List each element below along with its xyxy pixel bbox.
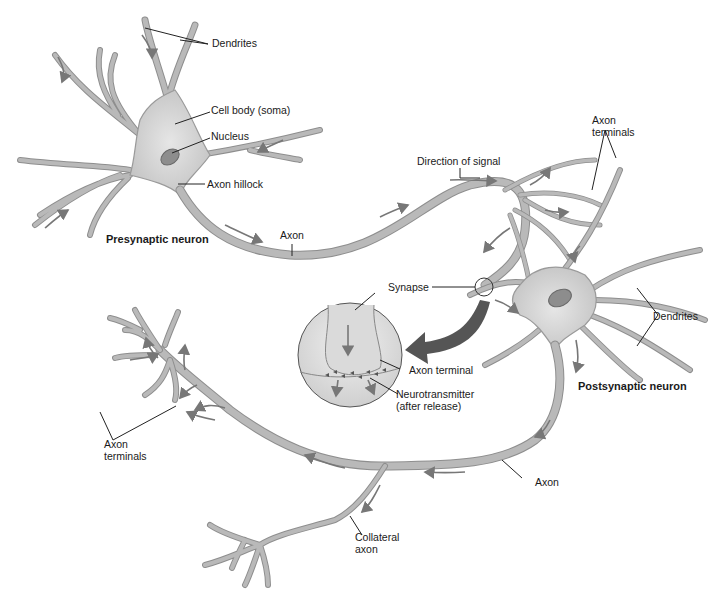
label-postsynaptic-neuron: Postsynaptic neuron	[578, 380, 687, 392]
label-axon-top: Axon	[280, 229, 304, 241]
magnify-callout-arrow	[405, 300, 490, 364]
collateral-axon	[205, 466, 385, 585]
label-cell-body: Cell body (soma)	[211, 104, 290, 116]
label-axon-terminals-top: Axon terminals	[592, 114, 635, 138]
label-neurotransmitter: Neurotransmitter (after release)	[396, 388, 474, 412]
label-nucleus: Nucleus	[211, 130, 249, 142]
label-dendrites-right: Dendrites	[653, 310, 698, 322]
label-direction-of-signal: Direction of signal	[417, 155, 500, 167]
label-axon-hillock: Axon hillock	[207, 178, 263, 190]
presynaptic-axon	[180, 181, 526, 285]
label-presynaptic-neuron: Presynaptic neuron	[106, 233, 209, 245]
label-axon-bottom: Axon	[535, 476, 559, 488]
neuron-diagram	[0, 0, 715, 599]
presynaptic-neuron	[20, 20, 600, 285]
label-axon-terminals-left: Axon terminals	[104, 438, 147, 462]
label-collateral-axon: Collateral axon	[355, 531, 399, 555]
label-dendrites-top: Dendrites	[212, 37, 257, 49]
label-synapse: Synapse	[388, 281, 429, 293]
label-axon-terminal-inset: Axon terminal	[409, 364, 473, 376]
synapse-inset	[298, 303, 402, 407]
